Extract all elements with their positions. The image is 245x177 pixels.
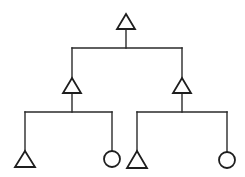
- edges-layer: [25, 29, 227, 152]
- nodes-layer: [15, 14, 235, 168]
- tree-diagram: [0, 0, 245, 177]
- triangle-icon: [63, 78, 81, 93]
- triangle-icon: [117, 14, 135, 29]
- triangle-icon: [127, 151, 147, 168]
- triangle-icon: [15, 151, 35, 167]
- triangle-icon: [173, 78, 191, 93]
- tree-diagram-canvas: [0, 0, 245, 177]
- circle-icon: [219, 152, 235, 168]
- circle-icon: [104, 151, 120, 167]
